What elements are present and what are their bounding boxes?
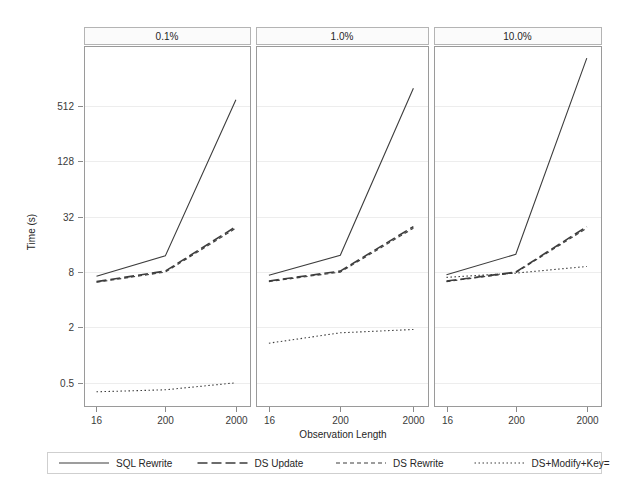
- y-axis-title: Time (s): [26, 214, 37, 250]
- x-tick-label: 200: [157, 415, 174, 426]
- panel-plot-frame: [257, 47, 429, 407]
- x-axis-title: Observation Length: [299, 429, 386, 440]
- x-tick-label: 2000: [402, 415, 425, 426]
- panel-strip-label: 10.0%: [503, 31, 531, 42]
- x-tick-label: 2000: [576, 415, 599, 426]
- y-tick-label: 8: [68, 267, 74, 278]
- panel-strip-label: 0.1%: [156, 31, 179, 42]
- y-tick-label: 512: [57, 101, 74, 112]
- legend-label-sql-rewrite: SQL Rewrite: [116, 458, 173, 469]
- panel-01: 0.1%162002000: [85, 28, 251, 427]
- legend-label-ds-rewrite: DS Rewrite: [393, 458, 444, 469]
- x-tick-label: 16: [442, 415, 454, 426]
- x-tick-label: 200: [332, 415, 349, 426]
- line-chart-svg: 0.1%1620020001.0%16200200010.0%162002000…: [0, 0, 627, 491]
- y-tick-label: 32: [63, 212, 75, 223]
- panel-plot-frame: [435, 47, 602, 407]
- panel-100: 10.0%162002000: [435, 28, 602, 427]
- y-tick-label: 128: [57, 156, 74, 167]
- legend-label-ds-modify-key: DS+Modify+Key=: [532, 458, 610, 469]
- panel-strip-label: 1.0%: [331, 31, 354, 42]
- x-tick-label: 200: [508, 415, 525, 426]
- y-tick-label: 2: [68, 322, 74, 333]
- panels-group: 0.1%1620020001.0%16200200010.0%162002000: [85, 28, 602, 427]
- x-tick-label: 16: [264, 415, 276, 426]
- legend: SQL RewriteDS UpdateDS RewriteDS+Modify+…: [48, 453, 610, 474]
- chart-figure: 0.1%1620020001.0%16200200010.0%162002000…: [0, 0, 627, 491]
- legend-label-ds-update: DS Update: [255, 458, 304, 469]
- panel-10: 1.0%162002000: [257, 28, 429, 427]
- panel-plot-frame: [85, 47, 251, 407]
- x-tick-label: 16: [91, 415, 103, 426]
- y-tick-label: 0.5: [60, 378, 74, 389]
- x-tick-label: 2000: [225, 415, 248, 426]
